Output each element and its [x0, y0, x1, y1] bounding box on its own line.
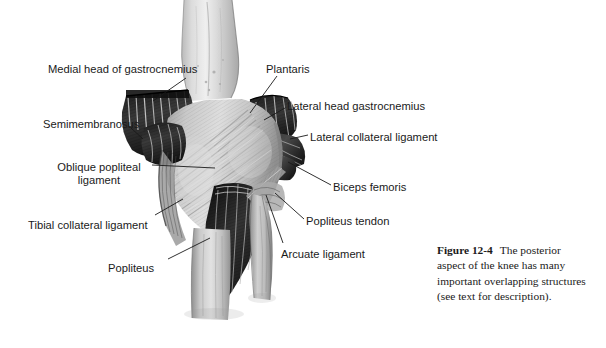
- femur-shaft: [181, 0, 238, 101]
- label-lateral-collateral-ligament: Lateral collateral ligament: [310, 131, 437, 144]
- label-semimembranosus: Semimembranosus: [43, 118, 139, 131]
- label-oblique-popliteal-ligament: Oblique popliteal ligament: [44, 161, 154, 187]
- label-lateral-head-gastrocnemius: Lateral head gastrocnemius: [287, 100, 425, 113]
- label-popliteus-tendon: Popliteus tendon: [306, 215, 389, 228]
- label-arcuate-ligament: Arcuate ligament: [281, 248, 365, 261]
- label-popliteus: Popliteus: [108, 262, 154, 275]
- figure-number: Figure 12-4: [437, 244, 493, 256]
- figure-caption: Figure 12-4The posterior aspect of the k…: [437, 243, 587, 305]
- label-oblique-popliteal-ligament-line2: ligament: [78, 174, 120, 186]
- label-medial-head-of-gastrocnemius: Medial head of gastrocnemius: [48, 63, 197, 76]
- label-tibial-collateral-ligament: Tibial collateral ligament: [28, 219, 148, 232]
- label-plantaris: Plantaris: [266, 63, 310, 76]
- label-oblique-popliteal-ligament-line1: Oblique popliteal: [57, 161, 140, 173]
- figure-page: Medial head of gastrocnemius Plantaris L…: [0, 0, 606, 348]
- tibia-shaft: [191, 228, 230, 320]
- label-biceps-femoris: Biceps femoris: [333, 181, 406, 194]
